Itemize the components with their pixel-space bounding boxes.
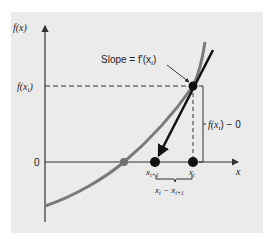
point-xi1-label: xi+1 [145,167,159,178]
point-xi-label: xi [188,167,195,178]
function-curve [45,42,205,206]
newton-raphson-diagram: f(x) f(xi) 0 Slope = f′(xi) f(xi) − 0 x … [0,0,270,239]
y-tick-fxi: f(xi) [17,81,34,94]
point-xi-on-curve [189,82,198,91]
point-xi1 [150,157,160,167]
slope-label: Slope = f′(xi) [101,54,156,67]
run-brace [156,175,192,182]
run-label: xi − xi+1 [154,185,184,196]
y-tick-zero: 0 [34,157,40,168]
root-point [120,158,128,166]
rise-label: f(xi) − 0 [208,119,241,132]
x-axis-label: x [235,166,241,177]
tangent-line [159,50,213,155]
point-xi [188,157,198,167]
slope-pointer [167,65,189,82]
y-axis-label: f(x) [13,22,28,34]
rise-bracket [199,86,203,162]
